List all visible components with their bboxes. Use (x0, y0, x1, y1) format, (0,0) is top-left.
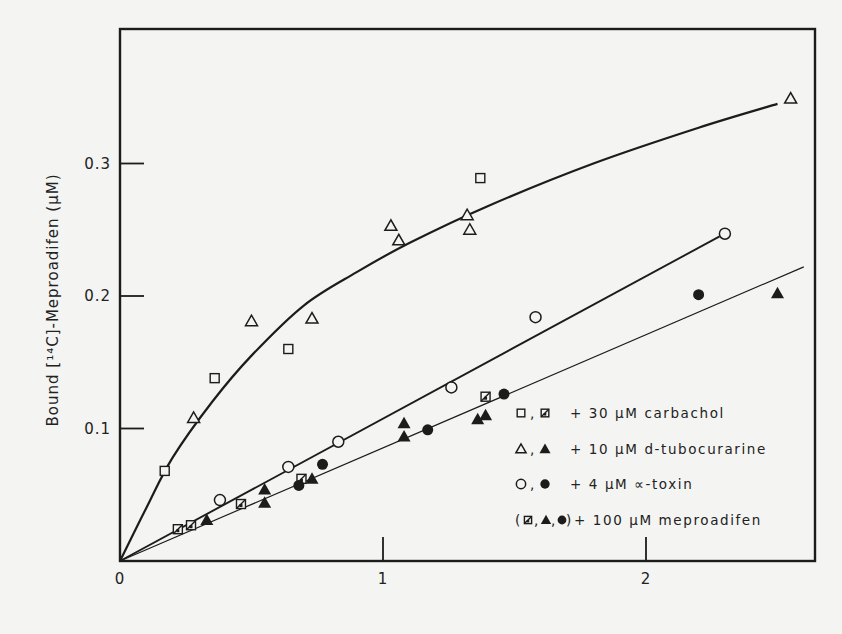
x-tick-label: 1 (378, 570, 389, 588)
open-triangle-marker (306, 313, 318, 324)
legend-separator: , (530, 441, 536, 457)
plot-frame (120, 29, 815, 561)
open-square-marker (476, 174, 485, 183)
legend-separator: , (534, 512, 540, 528)
legend-item: ,+ 10 μM d-tubocurarine (516, 441, 767, 457)
filled-triangle-marker (541, 515, 551, 524)
crossed-square-fill (190, 525, 193, 528)
legend-paren: ( (515, 512, 522, 528)
filled-circle-marker (498, 389, 509, 400)
y-tick-label: 0.3 (84, 155, 111, 173)
filled-triangle-marker (305, 472, 318, 484)
legend-label: + 30 μM carbachol (570, 405, 725, 421)
legend: ,+ 30 μM carbachol,+ 10 μM d-tubocurarin… (515, 405, 767, 528)
legend-paren: ) (566, 512, 573, 528)
open-triangle-marker (464, 224, 476, 235)
crossed-square-fill (239, 504, 242, 507)
filled-triangle-marker (398, 430, 411, 442)
legend-item: ,+ 30 μM carbachol (517, 405, 725, 421)
open-triangle-marker (246, 315, 258, 326)
data-points (160, 93, 796, 534)
open-square-marker (210, 374, 219, 383)
open-triangle-marker (385, 220, 397, 231)
y-tick-label: 0.2 (84, 287, 111, 305)
filled-triangle-marker (258, 496, 271, 508)
plot-border (120, 29, 815, 561)
legend-label: + 10 μM d-tubocurarine (570, 441, 767, 457)
filled-triangle-marker (771, 287, 784, 299)
legend-item: (,,)+ 100 μM meproadifen (515, 512, 762, 528)
filled-circle-marker (422, 424, 433, 435)
crossed-square-fill (527, 520, 529, 522)
x-tick-label: 2 (641, 570, 652, 588)
legend-label: + 4 μM ∝-toxin (570, 476, 693, 492)
filled-triangle-marker (479, 409, 492, 421)
y-axis-title: Bound [¹⁴C]-Meproadifen (μM) (44, 174, 62, 427)
open-triangle-marker (188, 412, 200, 423)
open-triangle-marker (785, 93, 797, 104)
y-tick-label: 0.1 (84, 420, 111, 438)
legend-item: ,+ 4 μM ∝-toxin (516, 476, 693, 492)
filled-triangle-marker (200, 513, 213, 525)
filled-circle-marker (293, 480, 304, 491)
open-circle-marker (333, 436, 344, 447)
open-circle-marker (516, 479, 525, 488)
open-square-marker (284, 345, 293, 354)
open-square-marker (160, 466, 169, 475)
open-circle-marker (283, 461, 294, 472)
filled-triangle-marker (539, 443, 550, 453)
crossed-square-fill (484, 397, 487, 400)
x-tick-label: 0 (115, 570, 126, 588)
open-circle-marker (446, 382, 457, 393)
legend-label: + 100 μM meproadifen (574, 512, 762, 528)
crossed-square-fill (544, 413, 547, 416)
open-triangle-marker (516, 444, 526, 453)
legend-separator: , (530, 476, 536, 492)
chart-figure: 0120.10.20.3 ,+ 30 μM carbachol,+ 10 μM … (0, 0, 842, 634)
open-square-marker (517, 409, 525, 417)
filled-circle-marker (540, 479, 549, 488)
filled-circle-marker (693, 289, 704, 300)
crossed-square-fill (176, 529, 179, 532)
open-circle-marker (530, 312, 541, 323)
fit-curve (120, 104, 778, 561)
legend-separator: , (530, 405, 536, 421)
legend-separator: , (551, 512, 557, 528)
open-circle-marker (214, 495, 225, 506)
open-circle-marker (719, 228, 730, 239)
filled-circle-marker (317, 459, 328, 470)
fit-curves (120, 104, 804, 561)
filled-triangle-marker (398, 417, 411, 429)
open-triangle-marker (393, 234, 405, 245)
